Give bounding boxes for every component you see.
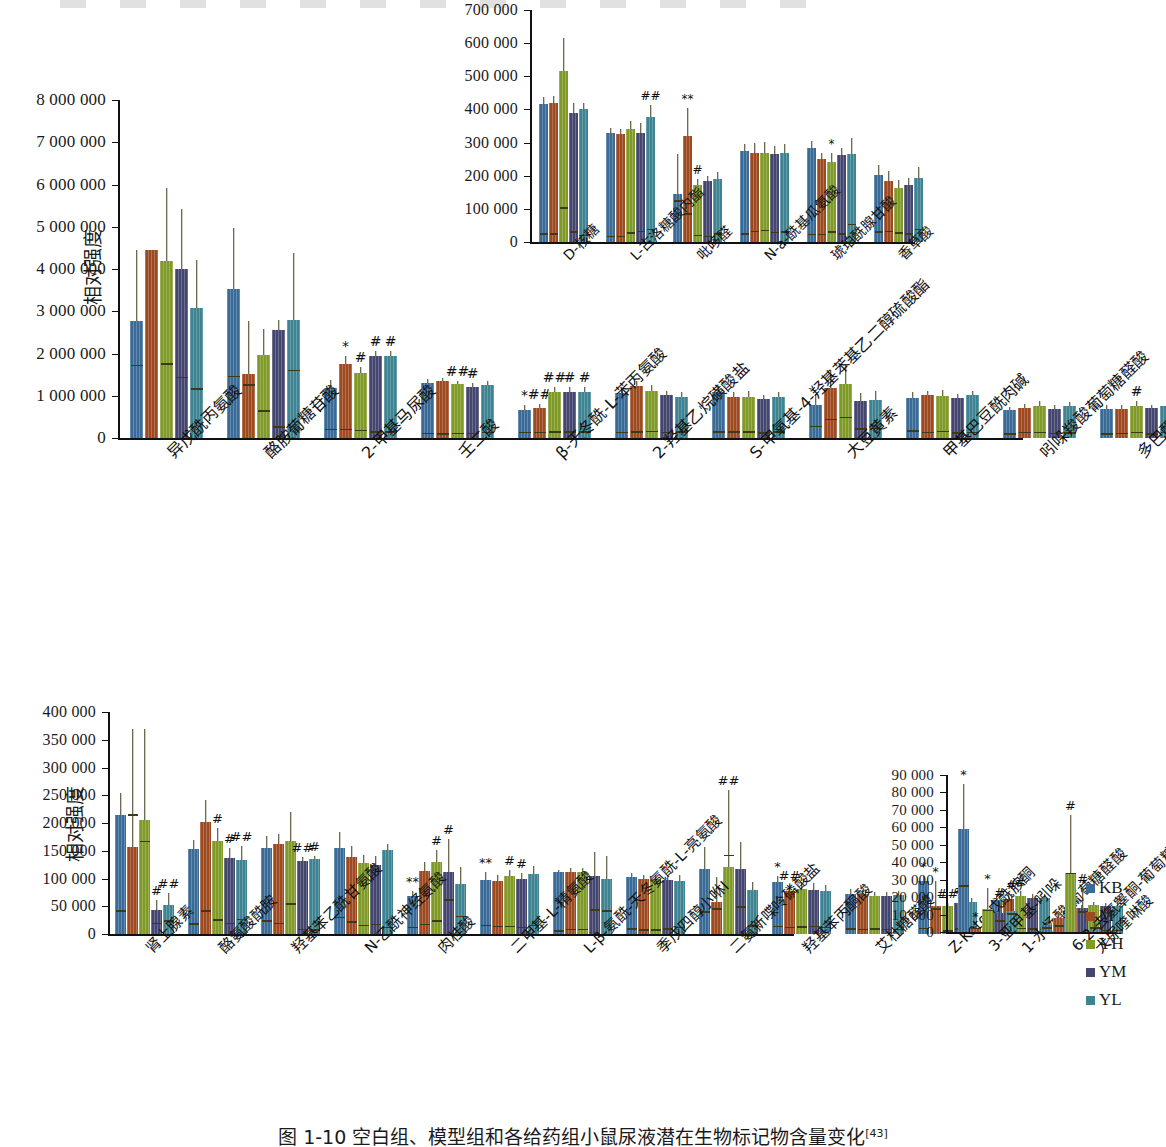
bar-group: #### (188, 712, 247, 934)
error-bar-cap (627, 232, 635, 234)
error-bar-cap (895, 232, 903, 234)
bar[interactable] (1100, 409, 1113, 438)
bar[interactable] (273, 844, 284, 934)
bar[interactable] (636, 133, 645, 242)
bar[interactable]: * (982, 909, 993, 932)
error-bar (166, 188, 168, 262)
bar[interactable] (740, 151, 749, 242)
error-bar-cap (422, 433, 434, 435)
bar[interactable] (200, 822, 211, 934)
bar[interactable] (539, 104, 548, 242)
error-bar (898, 180, 900, 188)
error-bar (740, 842, 742, 868)
error-bar (764, 142, 766, 153)
bar[interactable] (130, 321, 143, 438)
bar[interactable] (1003, 410, 1016, 438)
significance-marker: * (984, 872, 991, 885)
bar[interactable] (549, 103, 558, 242)
bar[interactable] (626, 129, 635, 242)
bar[interactable] (127, 847, 138, 934)
bar[interactable]: * (970, 929, 981, 932)
bar[interactable]: ## (451, 384, 464, 438)
bar[interactable] (606, 133, 615, 242)
bar[interactable] (139, 820, 150, 934)
error-bar-cap (818, 234, 826, 236)
error-bar (1011, 894, 1013, 911)
bar-group (130, 100, 203, 438)
error-bar-cap (437, 433, 449, 435)
bar[interactable] (492, 881, 503, 934)
bar[interactable] (1041, 925, 1052, 932)
bar[interactable] (645, 391, 658, 438)
bar[interactable]: ## (533, 408, 546, 438)
error-bar (811, 141, 813, 148)
error-bar-cap (1034, 432, 1046, 434)
bar[interactable]: # (504, 876, 515, 934)
figure-caption: 图 1-10 空白组、模型组和各给药组小鼠尿液潜在生物标记物含量变化[43] (0, 1122, 1166, 1147)
bar[interactable]: * (958, 829, 969, 932)
error-bar (640, 123, 642, 133)
bar[interactable] (906, 398, 919, 438)
error-bar (233, 228, 235, 289)
bar[interactable] (936, 396, 949, 438)
error-bar (554, 387, 556, 392)
bar[interactable] (1018, 408, 1031, 438)
bar[interactable] (770, 154, 779, 242)
bar[interactable] (559, 71, 568, 242)
legend-item-yl[interactable]: YL (1086, 990, 1126, 1010)
bar[interactable] (436, 381, 449, 438)
bar[interactable]: * (518, 410, 531, 438)
bar[interactable] (727, 397, 740, 438)
bar[interactable] (285, 841, 296, 934)
bar[interactable]: * (339, 364, 352, 438)
error-bar-cap (875, 231, 883, 233)
bar[interactable] (569, 113, 578, 242)
bar[interactable] (227, 289, 240, 438)
legend-item-kb[interactable]: KB (1086, 878, 1126, 898)
bar[interactable]: # (354, 373, 367, 438)
error-bar (193, 840, 195, 849)
bar[interactable] (1053, 918, 1064, 932)
bar[interactable]: ** (480, 880, 491, 934)
error-bar-cap (549, 431, 561, 433)
error-bar-cap (1019, 432, 1031, 434)
bar[interactable] (750, 153, 759, 242)
bar[interactable] (839, 384, 852, 438)
bar[interactable] (242, 374, 255, 438)
bar[interactable]: # (1130, 406, 1143, 438)
bar[interactable] (894, 188, 903, 242)
bar[interactable] (115, 815, 126, 934)
error-bar-cap (1116, 433, 1128, 435)
bar[interactable] (921, 395, 934, 438)
error-bar (825, 885, 827, 891)
significance-marker: # (309, 840, 320, 853)
bar-group: **## (480, 712, 539, 934)
significance-marker: ## (231, 830, 253, 843)
bar[interactable] (160, 261, 173, 438)
bar[interactable]: # (1065, 873, 1076, 932)
bar[interactable] (1033, 406, 1046, 438)
legend-item-yh[interactable]: YH (1086, 934, 1126, 954)
bar[interactable] (257, 355, 270, 438)
legend-item-ym[interactable]: YM (1086, 962, 1126, 982)
bar[interactable] (760, 153, 769, 242)
error-bar-cap (189, 923, 199, 925)
error-bar (744, 144, 746, 151)
bar[interactable]: ## (548, 392, 561, 438)
error-bar (390, 351, 392, 356)
bar[interactable] (145, 250, 158, 438)
error-bar (136, 250, 138, 322)
error-bar (651, 385, 653, 391)
y-axis-tick-label: 6 000 000 (0, 175, 106, 195)
bar[interactable] (175, 269, 188, 438)
bar-group (740, 10, 789, 242)
bar[interactable] (742, 397, 755, 438)
bar[interactable]: ## (723, 867, 734, 934)
error-bar (666, 391, 668, 396)
bar[interactable]: # (212, 841, 223, 934)
legend-item-m[interactable]: M (1086, 906, 1126, 926)
bar[interactable] (1115, 409, 1128, 438)
error-bar-cap (617, 236, 625, 238)
bar[interactable] (616, 134, 625, 242)
significance-marker: # (443, 823, 454, 836)
